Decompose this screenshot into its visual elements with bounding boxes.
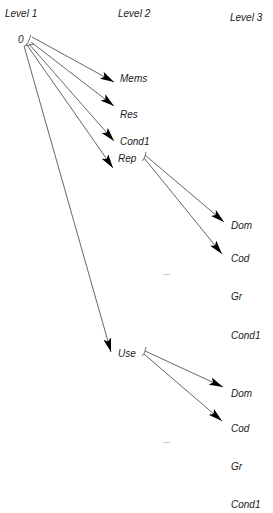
edge-rep-cod <box>144 158 222 254</box>
edge-root-res <box>31 42 114 106</box>
edge-use-dom <box>145 351 223 387</box>
header-level-2: Level 2 <box>118 9 150 19</box>
root-node: 0 <box>18 35 24 45</box>
edge-root-use <box>24 46 111 352</box>
node-res: Res <box>120 110 138 120</box>
node-use: Use <box>118 349 136 359</box>
edge-rep-dom <box>145 155 224 222</box>
rep-ellipsis: ... <box>163 268 171 277</box>
use-child-gr: Gr <box>231 462 242 472</box>
rep-child-gr: Gr <box>231 292 242 302</box>
use-ellipsis: ... <box>163 436 171 445</box>
node-cond1: Cond1 <box>120 137 149 147</box>
use-child-cod: Cod <box>231 424 249 434</box>
edge-root-mems <box>32 37 114 82</box>
node-mems: Mems <box>120 74 147 84</box>
hierarchy-diagram: Level 1 Level 2 Level 3 0 Mems Res Cond1… <box>0 0 273 513</box>
node-rep: Rep <box>118 154 136 164</box>
use-child-dom: Dom <box>231 389 252 399</box>
rep-child-cond1: Cond1 <box>231 331 260 341</box>
header-level-3: Level 3 <box>230 13 262 23</box>
edge-use-cod <box>144 354 222 421</box>
edge-root-rep <box>27 45 113 168</box>
header-level-1: Level 1 <box>5 9 37 19</box>
rep-child-cod: Cod <box>231 254 249 264</box>
use-child-cond1: Cond1 <box>231 500 260 510</box>
rep-child-dom: Dom <box>231 221 252 231</box>
